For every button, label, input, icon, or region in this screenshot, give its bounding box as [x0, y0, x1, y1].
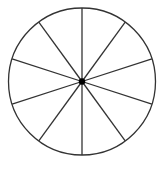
divided-circle-diagram: [0, 0, 160, 170]
center-dot: [79, 78, 85, 84]
